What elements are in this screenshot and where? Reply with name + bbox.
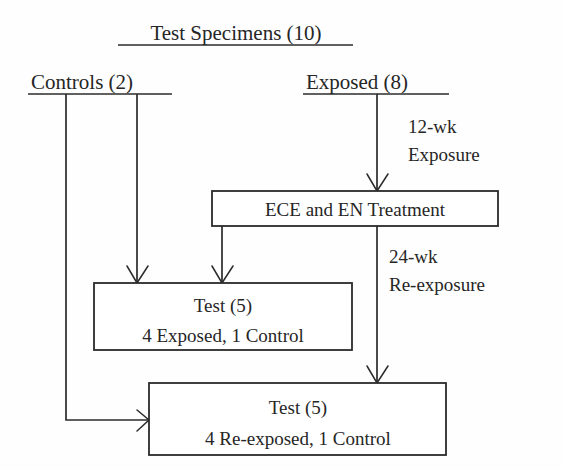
node-test-group-2-line2: 4 Re-exposed, 1 Control [205, 428, 391, 449]
branch-label-controls: Controls (2) [31, 70, 133, 94]
flowchart-svg: Test Specimens (10) Controls (2) Exposed… [0, 0, 562, 470]
edge-label-24wk-line2: Re-exposure [389, 274, 485, 295]
branch-label-exposed: Exposed (8) [306, 70, 408, 94]
edge-label-24wk-line1: 24-wk [389, 246, 438, 267]
diagram-canvas: Test Specimens (10) Controls (2) Exposed… [0, 0, 562, 470]
node-test-group-2-line1: Test (5) [269, 397, 327, 419]
node-treatment-label: ECE and EN Treatment [265, 199, 446, 220]
diagram-title: Test Specimens (10) [150, 21, 321, 45]
edge-label-12wk-line1: 12-wk [408, 116, 457, 137]
node-test-group-1-line1: Test (5) [194, 295, 252, 317]
node-test-group-1-line2: 4 Exposed, 1 Control [142, 325, 304, 346]
edge-label-12wk-line2: Exposure [408, 144, 480, 165]
